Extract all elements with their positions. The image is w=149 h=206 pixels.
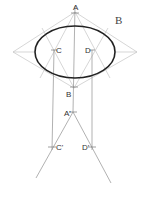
projection-c [52,50,54,150]
label-d: D [85,46,91,55]
diag-a-left [40,12,75,78]
diag-b-right [74,28,108,88]
label-c-prime: C' [56,143,64,152]
panel-label: B [115,14,122,26]
ellipse [35,26,115,78]
cone-left [36,112,73,178]
tick-marks [48,13,96,147]
ellipse-construction-diagram: A B C D B A' C' D' [0,0,149,206]
label-a-prime: A' [64,109,71,118]
diag-a-right [75,12,110,78]
label-a: A [73,3,79,12]
label-d-prime: D' [82,143,90,152]
axis-vertical [73,6,75,112]
label-b: B [66,90,71,99]
label-c: C [56,46,62,55]
diag-b-left [42,28,74,88]
